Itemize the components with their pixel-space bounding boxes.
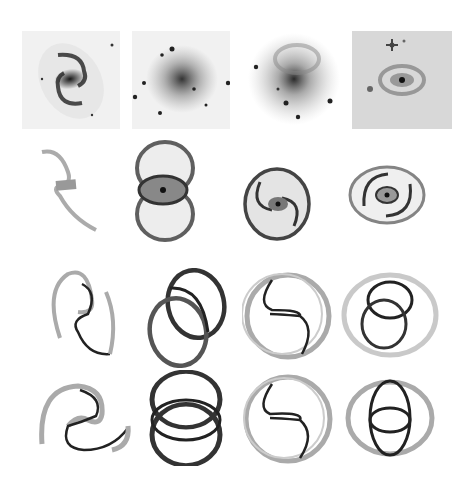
galaxy-photo-2: [132, 31, 230, 129]
orbit-model-face-on-4: [344, 378, 436, 458]
orbit-model-inclined-2: [142, 268, 232, 368]
galaxy-photo-4: [352, 31, 452, 129]
orbit-model-face-on-1: [38, 378, 134, 454]
galaxy-photo-1: [22, 31, 120, 129]
orbit-model-face-on-2: [146, 370, 226, 466]
orbit-model-inclined-3: [242, 270, 334, 362]
galaxy-photo-3: [242, 31, 342, 129]
simulation-4: [348, 164, 426, 226]
simulation-3: [242, 166, 312, 242]
simulation-1: [30, 140, 110, 240]
orbit-model-inclined-4: [340, 270, 440, 360]
orbit-model-face-on-3: [242, 374, 334, 464]
orbit-model-inclined-1: [48, 270, 124, 366]
simulation-2: [130, 138, 200, 244]
